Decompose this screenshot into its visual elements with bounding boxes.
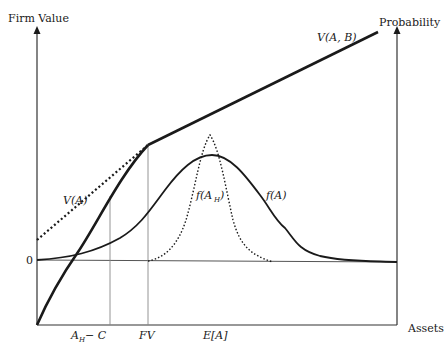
x-axis-label: Assets [407, 322, 444, 335]
zero-label: 0 [26, 254, 33, 267]
v-debt-curve [37, 145, 148, 325]
f-a-curve [37, 155, 397, 262]
f-a-label: f(A) [265, 189, 287, 202]
v-a-label: V(A) [63, 194, 87, 207]
up-arrow-icon [34, 26, 41, 34]
svg-text:f(A: f(A [195, 189, 212, 202]
tick-label-ah-minus-c: A H − C [70, 329, 107, 344]
left-axis [34, 26, 41, 325]
tick-label-fv: FV [138, 329, 156, 342]
v-a-line [37, 145, 148, 240]
left-axis-label: Firm Value [8, 12, 69, 25]
diagram-canvas: Firm Value Probability Assets 0 V(A, B) … [0, 0, 448, 355]
svg-text:): ) [219, 189, 224, 202]
v-ab-label: V(A, B) [317, 31, 357, 44]
firm-value-diagram: Firm Value Probability Assets 0 V(A, B) … [0, 0, 448, 355]
v-ab-line [148, 32, 378, 145]
svg-text:A: A [70, 329, 79, 342]
f-ah-label: f(A H ) [195, 189, 224, 204]
tick-label-expected-a: E[A] [202, 329, 228, 342]
right-axis [394, 26, 401, 325]
right-axis-label: Probability [379, 16, 441, 29]
svg-text:− C: − C [85, 329, 107, 342]
